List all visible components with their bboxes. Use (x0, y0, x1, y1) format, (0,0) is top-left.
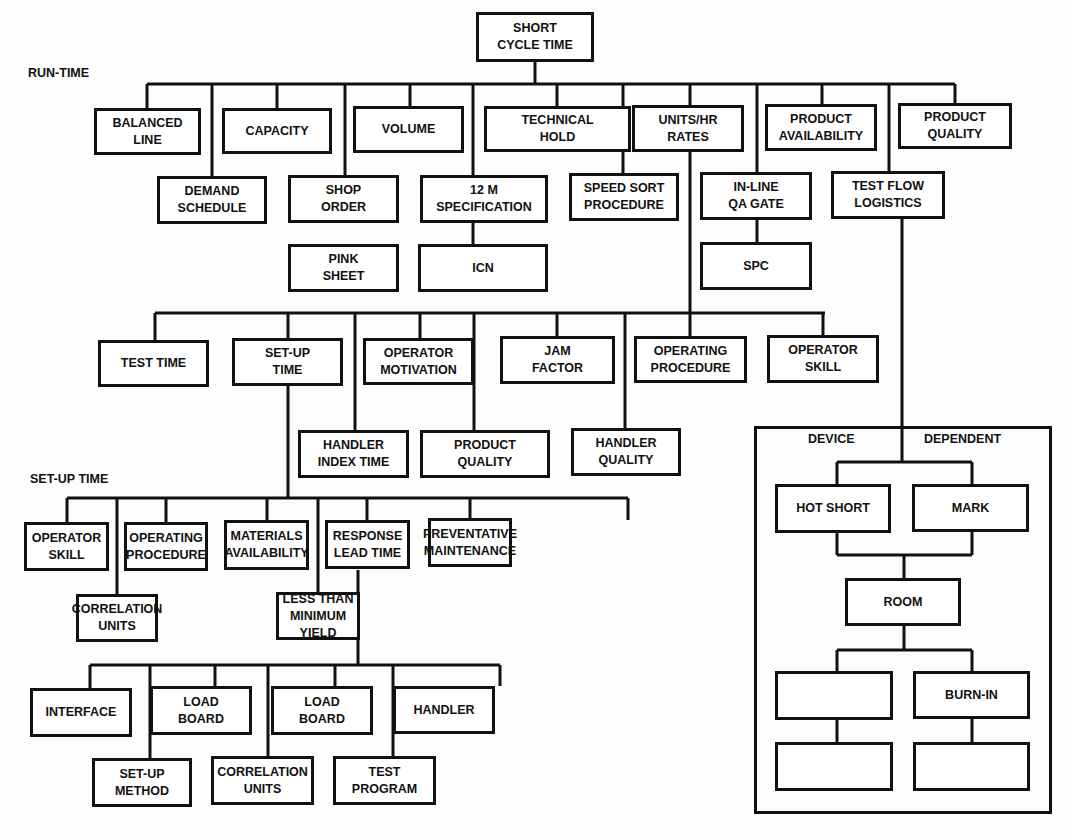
node-handler-quality: HANDLER QUALITY (571, 428, 681, 476)
node-handler-index-time: HANDLER INDEX TIME (298, 430, 409, 478)
node-test-flow-logistics: TEST FLOW LOGISTICS (831, 171, 945, 219)
node-spc: SPC (700, 242, 812, 290)
node-in-line-qa-gate: IN-LINE QA GATE (700, 172, 812, 220)
node-correlation-units-2: CORRELATION UNITS (211, 756, 314, 805)
node-mark: MARK (912, 484, 1029, 532)
node-preventative-maintenance: PREVENTATIVE MAINTENANCE (428, 518, 512, 567)
node-12m-specification: 12 M SPECIFICATION (420, 175, 548, 223)
node-pink-sheet: PINK SHEET (288, 244, 399, 292)
node-less-than-minimum-yield: LESS THAN MINIMUM YIELD (276, 592, 360, 640)
node-operator-motivation: OPERATOR MOTIVATION (363, 338, 474, 385)
node-balanced-line: BALANCED LINE (94, 108, 201, 155)
node-handler: HANDLER (393, 686, 495, 734)
node-product-availability: PRODUCT AVAILABILITY (765, 104, 877, 151)
node-icn: ICN (418, 244, 548, 292)
node-room: ROOM (845, 578, 961, 626)
node-units-hr-rates: UNITS/HR RATES (632, 105, 744, 152)
node-volume: VOLUME (353, 106, 464, 153)
section-label-set-up-time: SET-UP TIME (30, 472, 108, 486)
node-blank-1 (775, 671, 893, 720)
node-materials-availability: MATERIALS AVAILABILITY (224, 520, 309, 570)
node-short-cycle-time: SHORT CYCLE TIME (476, 12, 594, 62)
node-test-program: TEST PROGRAM (333, 756, 436, 805)
node-technical-hold: TECHNICAL HOLD (484, 106, 631, 152)
node-load-board-1: LOAD BOARD (150, 686, 252, 735)
node-response-lead-time: RESPONSE LEAD TIME (325, 520, 410, 569)
node-operating-procedure-1: OPERATING PROCEDURE (634, 336, 747, 383)
node-operator-skill-2: OPERATOR SKILL (24, 522, 109, 571)
node-load-board-2: LOAD BOARD (271, 686, 373, 735)
node-set-up-method: SET-UP METHOD (92, 758, 192, 807)
panel-label-dependent: DEPENDENT (924, 432, 1001, 446)
node-test-time: TEST TIME (98, 340, 209, 387)
node-operating-procedure-2: OPERATING PROCEDURE (124, 522, 208, 571)
node-set-up-time: SET-UP TIME (232, 338, 343, 386)
node-product-quality-top: PRODUCT QUALITY (898, 103, 1012, 149)
node-demand-schedule: DEMAND SCHEDULE (157, 176, 267, 224)
node-hot-short: HOT SHORT (775, 484, 891, 533)
node-capacity: CAPACITY (222, 108, 332, 154)
node-interface: INTERFACE (30, 688, 132, 737)
node-blank-2 (775, 742, 893, 791)
node-shop-order: SHOP ORDER (288, 175, 399, 223)
panel-label-device: DEVICE (808, 432, 855, 446)
node-speed-sort-procedure: SPEED SORT PROCEDURE (569, 173, 679, 221)
section-label-run-time: RUN-TIME (28, 66, 89, 80)
node-burn-in: BURN-IN (913, 671, 1030, 719)
node-product-quality-2: PRODUCT QUALITY (420, 430, 550, 478)
node-correlation-units-1: CORRELATION UNITS (76, 594, 158, 642)
node-operator-skill-1: OPERATOR SKILL (767, 335, 879, 383)
node-jam-factor: JAM FACTOR (500, 336, 615, 384)
node-blank-3 (913, 742, 1030, 791)
